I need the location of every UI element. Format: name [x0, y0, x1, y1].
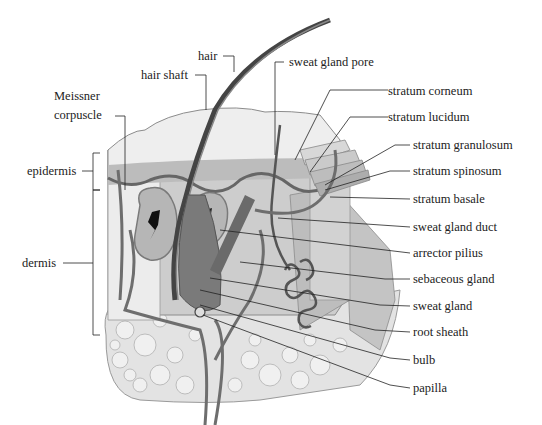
label-meissner-line2: corpuscle — [54, 108, 102, 122]
label-bulb: bulb — [413, 353, 435, 367]
label-papilla: papilla — [413, 381, 447, 395]
label-stratum-corneum: stratum corneum — [388, 84, 472, 98]
label-root-sheath: root sheath — [413, 325, 468, 339]
skin-illustration — [0, 0, 542, 425]
label-stratum-granulosum: stratum granulosum — [413, 138, 513, 152]
label-sweat-gland-pore: sweat gland pore — [289, 55, 374, 69]
label-sebaceous-gland: sebaceous gland — [413, 272, 495, 286]
label-arrector-pilius: arrector pilius — [413, 246, 483, 260]
label-epidermis: epidermis — [27, 164, 76, 178]
label-dermis: dermis — [22, 256, 56, 270]
label-sweat-gland-duct: sweat gland duct — [413, 220, 497, 234]
label-meissner-line1: Meissner — [54, 89, 100, 103]
label-stratum-spinosum: stratum spinosum — [413, 164, 502, 178]
label-sweat-gland: sweat gland — [413, 299, 472, 313]
label-stratum-lucidum: stratum lucidum — [388, 110, 470, 124]
label-hair: hair — [198, 49, 217, 63]
label-hair-shaft: hair shaft — [141, 68, 188, 82]
skin-diagram: hair hair shaft sweat gland pore Meissne… — [0, 0, 542, 425]
label-stratum-basale: stratum basale — [413, 192, 485, 206]
